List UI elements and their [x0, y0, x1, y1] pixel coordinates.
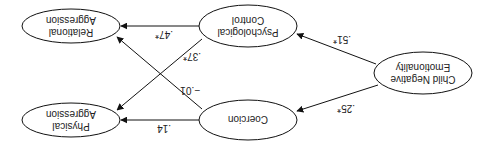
node-child-negative-emotionality: Child Negative Emotionality	[374, 52, 472, 94]
svg-text:Aggression: Aggression	[46, 109, 96, 120]
path-diagram: .51* .25* .47* .37* −.01 .14 Child Negat…	[0, 0, 491, 147]
svg-text:Coercion: Coercion	[228, 114, 268, 125]
edge-label-co-ra: −.01	[180, 85, 200, 96]
svg-text:Psychological: Psychological	[217, 27, 278, 38]
edge-label-co-pa: .14	[157, 123, 171, 134]
svg-text:Relational: Relational	[49, 27, 93, 38]
edge-label-cne-pc: .51*	[333, 34, 351, 45]
svg-text:Physical: Physical	[52, 121, 89, 132]
edge-pc-ra: .47*	[121, 26, 199, 40]
edge-pc-pa: .37*	[117, 39, 202, 110]
edge-label-cne-co: .25*	[337, 103, 355, 114]
edge-cne-co: .25*	[297, 85, 378, 114]
edge-co-ra: −.01	[117, 37, 202, 109]
node-coercion: Coercion	[199, 100, 297, 140]
svg-text:Control: Control	[232, 15, 264, 26]
svg-text:Aggression: Aggression	[46, 15, 96, 26]
node-relational-aggression: Relational Aggression	[22, 9, 120, 43]
edge-co-pa: .14	[121, 120, 199, 134]
svg-text:Child Negative: Child Negative	[390, 74, 455, 85]
edge-cne-pc: .51*	[297, 34, 376, 64]
edge-label-pc-pa: .37*	[183, 51, 201, 62]
edge-label-pc-ra: .47*	[155, 29, 173, 40]
node-psychological-control: Psychological Control	[199, 5, 297, 47]
node-physical-aggression: Physical Aggression	[22, 103, 120, 137]
svg-text:Emotionality: Emotionality	[396, 62, 450, 73]
